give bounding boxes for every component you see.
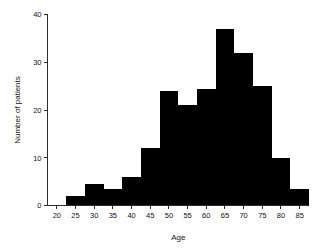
histogram-bar bbox=[160, 91, 179, 206]
y-tick-label: 30 bbox=[33, 58, 41, 67]
bars-group bbox=[66, 29, 309, 206]
x-tick-label: 30 bbox=[90, 211, 98, 220]
histogram-bar bbox=[122, 177, 141, 206]
x-tick-label: 55 bbox=[183, 211, 191, 220]
histogram-bar bbox=[253, 86, 272, 205]
x-axis-ticks: 2025303540455055606570758085 bbox=[53, 206, 304, 221]
histogram-bar bbox=[234, 53, 253, 206]
histogram-bar bbox=[290, 189, 309, 206]
histogram-figure: 010203040 2025303540455055606570758085 A… bbox=[0, 0, 324, 252]
x-tick-label: 25 bbox=[71, 211, 79, 220]
age-histogram-chart: 010203040 2025303540455055606570758085 A… bbox=[0, 0, 324, 252]
x-tick-label: 65 bbox=[221, 211, 229, 220]
y-axis-title: Number of patients bbox=[13, 76, 22, 144]
x-tick-label: 70 bbox=[239, 211, 247, 220]
histogram-bar bbox=[141, 148, 160, 205]
x-tick-label: 35 bbox=[109, 211, 117, 220]
x-tick-label: 40 bbox=[127, 211, 135, 220]
histogram-bar bbox=[66, 196, 85, 206]
y-tick-label: 0 bbox=[37, 201, 41, 210]
x-tick-label: 60 bbox=[202, 211, 210, 220]
x-tick-label: 85 bbox=[295, 211, 303, 220]
x-tick-label: 20 bbox=[53, 211, 61, 220]
x-tick-label: 80 bbox=[277, 211, 285, 220]
y-tick-label: 20 bbox=[33, 106, 41, 115]
y-tick-label: 40 bbox=[33, 10, 41, 19]
x-tick-label: 75 bbox=[258, 211, 266, 220]
y-tick-label: 10 bbox=[33, 154, 41, 163]
x-tick-label: 45 bbox=[146, 211, 154, 220]
histogram-bar bbox=[197, 89, 216, 206]
histogram-bar bbox=[85, 184, 104, 205]
histogram-bar bbox=[104, 189, 123, 206]
histogram-bar bbox=[272, 158, 291, 206]
histogram-bar bbox=[216, 29, 235, 206]
y-axis-ticks: 010203040 bbox=[33, 10, 47, 210]
histogram-bar bbox=[178, 105, 197, 205]
x-tick-label: 50 bbox=[165, 211, 173, 220]
x-axis-title: Age bbox=[171, 233, 186, 242]
